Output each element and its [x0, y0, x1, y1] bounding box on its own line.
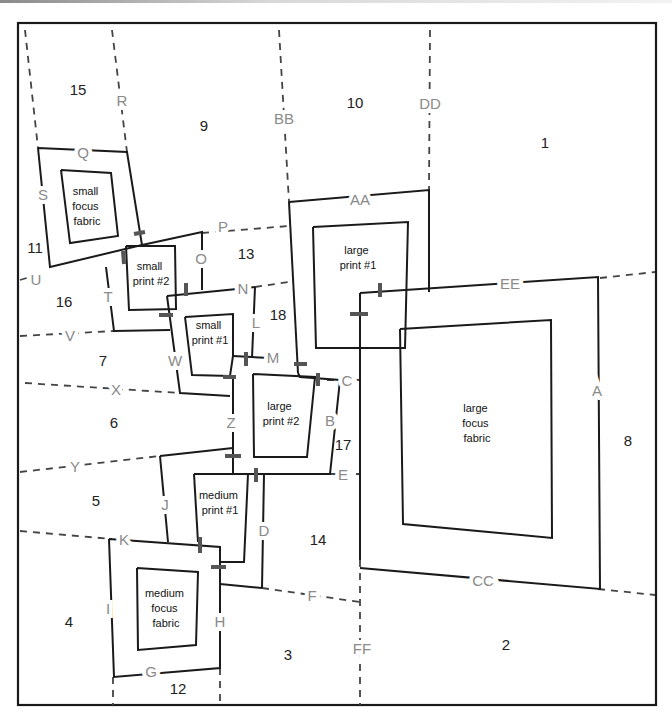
region-18: 18: [270, 306, 287, 323]
large-print-1-label: large print #1: [340, 244, 377, 271]
segment-Y: Y: [70, 458, 80, 475]
segment-CC: CC: [472, 572, 494, 589]
segment-T: T: [103, 288, 112, 305]
segment-K: K: [119, 531, 129, 548]
segment-Q: Q: [77, 144, 89, 161]
region-16: 16: [56, 293, 73, 310]
region-6: 6: [110, 414, 118, 431]
region-12: 12: [170, 680, 187, 697]
quilt-outer-border: [18, 23, 656, 705]
small-focus-fabric-label: small focus fabric: [72, 185, 101, 227]
region-8: 8: [624, 432, 632, 449]
segment-N: N: [238, 280, 249, 297]
region-2: 2: [502, 636, 510, 653]
segment-R: R: [117, 92, 128, 109]
segment-H: H: [215, 613, 226, 630]
large-print-2-label: large print #2: [263, 400, 300, 427]
segment-V: V: [65, 327, 75, 344]
segment-X: X: [111, 381, 121, 398]
segment-S: S: [38, 186, 48, 203]
segment-G: G: [145, 663, 157, 680]
segment-FF: FF: [353, 640, 371, 657]
segment-AA: AA: [350, 191, 370, 208]
segment-D: D: [259, 522, 270, 539]
dashed-cut-lines: [20, 30, 655, 705]
medium-focus-fabric-label: medium focus fabric: [145, 587, 187, 629]
segment-Z: Z: [226, 414, 235, 431]
segment-A: A: [592, 382, 602, 399]
segment-W: W: [168, 352, 183, 369]
segment-C: C: [342, 372, 353, 389]
segment-P: P: [218, 218, 228, 235]
region-7: 7: [99, 352, 107, 369]
region-9: 9: [200, 117, 208, 134]
segment-F: F: [307, 587, 316, 604]
region-11: 11: [27, 239, 43, 256]
segment-EE: EE: [500, 275, 520, 292]
segment-U: U: [31, 271, 42, 288]
region-3: 3: [284, 646, 292, 663]
region-5: 5: [92, 492, 100, 509]
region-14: 14: [310, 531, 327, 548]
region-4: 4: [65, 613, 73, 630]
segment-B: B: [325, 412, 335, 429]
medium-print-1-label: medium print #1: [199, 489, 241, 516]
region-17: 17: [335, 436, 352, 453]
segment-M: M: [267, 349, 280, 366]
segment-O: O: [195, 250, 207, 267]
segment-E: E: [338, 466, 348, 483]
region-15: 15: [70, 81, 87, 98]
region-13: 13: [238, 245, 255, 262]
large-focus-fabric-label: large focus fabric: [462, 402, 491, 444]
segment-J: J: [161, 496, 169, 513]
segment-BB: BB: [274, 110, 294, 127]
quilt-diagram: small focus fabric small print #2 small …: [0, 0, 672, 717]
segment-L: L: [252, 314, 260, 331]
medium-focus-fabric-block: [109, 539, 262, 677]
region-1: 1: [541, 134, 549, 151]
segment-I: I: [106, 600, 110, 617]
segment-DD: DD: [419, 95, 441, 112]
small-print-1-label: small print #1: [192, 319, 229, 346]
region-10: 10: [347, 94, 364, 111]
small-print-2-label: small print #2: [133, 260, 170, 287]
